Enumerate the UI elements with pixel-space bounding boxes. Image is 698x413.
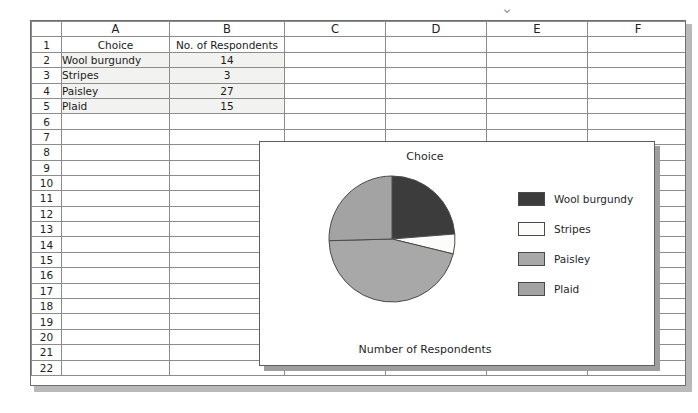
cell-e1[interactable]: [487, 37, 588, 52]
legend-label: Wool burgundy: [554, 193, 633, 205]
row-header-7[interactable]: 7: [32, 129, 62, 144]
row-header-19[interactable]: 19: [32, 314, 62, 329]
legend-label: Plaid: [554, 283, 579, 295]
cell-a21[interactable]: [62, 345, 170, 360]
cell-a22[interactable]: [62, 360, 170, 375]
chevron-down-icon[interactable]: ⌄: [498, 1, 516, 15]
chart-panel[interactable]: Choice Wool burgundyStripesPaisleyPlaid …: [259, 141, 655, 366]
cell-c5[interactable]: [285, 98, 386, 113]
cell-c6[interactable]: [285, 114, 386, 129]
cell-a2[interactable]: Wool burgundy: [62, 52, 170, 67]
row-header-13[interactable]: 13: [32, 222, 62, 237]
row-header-22[interactable]: 22: [32, 360, 62, 375]
pie-chart-svg: [327, 174, 457, 304]
screenshot-root: ⌄ A B C D E F 1ChoiceNo. of Respondents2…: [0, 0, 698, 413]
cell-e2[interactable]: [487, 52, 588, 67]
cell-f2[interactable]: [588, 52, 687, 67]
cell-a3[interactable]: Stripes: [62, 68, 170, 83]
column-header-b[interactable]: B: [170, 22, 285, 37]
cell-a12[interactable]: [62, 206, 170, 221]
column-header-d[interactable]: D: [386, 22, 487, 37]
cell-a14[interactable]: [62, 237, 170, 252]
row-header-12[interactable]: 12: [32, 206, 62, 221]
cell-a18[interactable]: [62, 299, 170, 314]
cell-a13[interactable]: [62, 222, 170, 237]
legend-swatch-icon: [518, 252, 545, 266]
cell-a9[interactable]: [62, 160, 170, 175]
cell-e3[interactable]: [487, 68, 588, 83]
cell-c3[interactable]: [285, 68, 386, 83]
cell-e4[interactable]: [487, 83, 588, 98]
cell-a20[interactable]: [62, 329, 170, 344]
row-header-21[interactable]: 21: [32, 345, 62, 360]
cell-a16[interactable]: [62, 268, 170, 283]
cell-d4[interactable]: [386, 83, 487, 98]
column-header-row: A B C D E F: [32, 22, 687, 37]
cell-a17[interactable]: [62, 283, 170, 298]
row-header-16[interactable]: 16: [32, 268, 62, 283]
cell-e6[interactable]: [487, 114, 588, 129]
cell-e5[interactable]: [487, 98, 588, 113]
cell-c2[interactable]: [285, 52, 386, 67]
cell-a5[interactable]: Plaid: [62, 98, 170, 113]
row-header-8[interactable]: 8: [32, 145, 62, 160]
row-header-17[interactable]: 17: [32, 283, 62, 298]
chart-x-axis-label: Number of Respondents: [260, 343, 590, 356]
column-header-c[interactable]: C: [285, 22, 386, 37]
cell-f1[interactable]: [588, 37, 687, 52]
table-row: 4Paisley27: [32, 83, 687, 98]
cell-f6[interactable]: [588, 114, 687, 129]
cell-a15[interactable]: [62, 252, 170, 267]
cell-b4[interactable]: 27: [170, 83, 285, 98]
cell-b2[interactable]: 14: [170, 52, 285, 67]
cell-a6[interactable]: [62, 114, 170, 129]
column-header-f[interactable]: F: [588, 22, 687, 37]
cell-b5[interactable]: 15: [170, 98, 285, 113]
row-header-3[interactable]: 3: [32, 68, 62, 83]
legend-item-plaid[interactable]: Plaid: [518, 274, 650, 304]
pie-slice-wool-burgundy[interactable]: [392, 176, 455, 239]
legend-item-wool-burgundy[interactable]: Wool burgundy: [518, 184, 650, 214]
cell-a19[interactable]: [62, 314, 170, 329]
legend-item-stripes[interactable]: Stripes: [518, 214, 650, 244]
row-header-10[interactable]: 10: [32, 175, 62, 190]
cell-c1[interactable]: [285, 37, 386, 52]
row-header-14[interactable]: 14: [32, 237, 62, 252]
cell-d1[interactable]: [386, 37, 487, 52]
cell-b1[interactable]: No. of Respondents: [170, 37, 285, 52]
cell-a11[interactable]: [62, 191, 170, 206]
legend-swatch-icon: [518, 192, 545, 206]
cell-c4[interactable]: [285, 83, 386, 98]
cell-d3[interactable]: [386, 68, 487, 83]
cell-f5[interactable]: [588, 98, 687, 113]
cell-a7[interactable]: [62, 129, 170, 144]
table-row: 6: [32, 114, 687, 129]
cell-f4[interactable]: [588, 83, 687, 98]
cell-a8[interactable]: [62, 145, 170, 160]
cell-b6[interactable]: [170, 114, 285, 129]
cell-b3[interactable]: 3: [170, 68, 285, 83]
row-header-20[interactable]: 20: [32, 329, 62, 344]
cell-d6[interactable]: [386, 114, 487, 129]
pie-slice-plaid[interactable]: [329, 176, 392, 241]
cell-f3[interactable]: [588, 68, 687, 83]
row-header-5[interactable]: 5: [32, 98, 62, 113]
row-header-18[interactable]: 18: [32, 299, 62, 314]
cell-d5[interactable]: [386, 98, 487, 113]
cell-d2[interactable]: [386, 52, 487, 67]
cell-a10[interactable]: [62, 175, 170, 190]
legend-item-paisley[interactable]: Paisley: [518, 244, 650, 274]
row-header-11[interactable]: 11: [32, 191, 62, 206]
row-header-2[interactable]: 2: [32, 52, 62, 67]
row-header-4[interactable]: 4: [32, 83, 62, 98]
cell-a1[interactable]: Choice: [62, 37, 170, 52]
table-row: 3Stripes3: [32, 68, 687, 83]
column-header-e[interactable]: E: [487, 22, 588, 37]
column-header-a[interactable]: A: [62, 22, 170, 37]
row-header-9[interactable]: 9: [32, 160, 62, 175]
select-all-corner[interactable]: [32, 22, 62, 37]
cell-a4[interactable]: Paisley: [62, 83, 170, 98]
row-header-1[interactable]: 1: [32, 37, 62, 52]
row-header-6[interactable]: 6: [32, 114, 62, 129]
row-header-15[interactable]: 15: [32, 252, 62, 267]
